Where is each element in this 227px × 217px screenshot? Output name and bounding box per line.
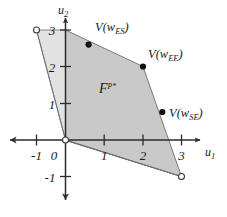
x-tick-label-1: 1 (101, 148, 108, 163)
origin-label: 0 (51, 148, 58, 163)
vertex-label-V-w-SE: V(wSE) (169, 106, 203, 122)
x-axis-label: u1 (205, 145, 215, 161)
open-marker-lower-right (179, 174, 185, 180)
vertex-marker-V-w-SE (159, 109, 165, 115)
x-tick-label-3: 3 (177, 148, 185, 163)
feasible-region-figure: -1 1 2 3 3 2 1 -1 0 u1 u2 FP* V(wES) (0, 0, 227, 217)
y-tick-label-1: 1 (49, 97, 56, 112)
y-tick-label-2: 2 (49, 60, 56, 75)
y-tick-label-3: 3 (48, 23, 56, 38)
vertex-marker-V-w-ES (86, 42, 92, 48)
vertex-marker-V-w-EE (140, 63, 146, 69)
x-tick-label--1: -1 (31, 148, 42, 163)
vertex-label-V-w-ES: V(wES) (95, 20, 129, 36)
y-axis-label: u2 (58, 3, 69, 19)
open-marker-origin (63, 137, 69, 143)
vertex-label-V-w-EE: V(wEE) (148, 47, 183, 63)
open-marker-upper-left (34, 27, 40, 33)
y-tick-label--1: -1 (45, 170, 56, 185)
figure-canvas: -1 1 2 3 3 2 1 -1 0 u1 u2 FP* V(wES) (0, 0, 227, 217)
x-tick-label-2: 2 (140, 148, 147, 163)
